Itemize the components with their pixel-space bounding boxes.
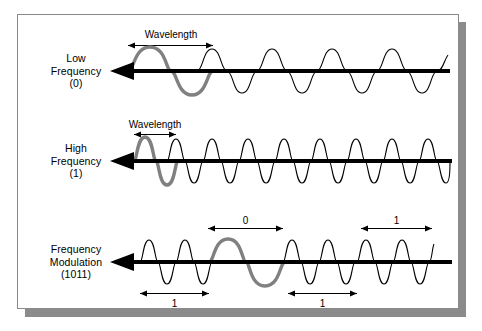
figure-canvas: Low Frequency (0) Wavelength H: [0, 0, 482, 331]
diagram-panel: [17, 14, 459, 309]
panel-shadow-bottom: [25, 309, 466, 317]
panel-shadow-right: [459, 22, 466, 317]
